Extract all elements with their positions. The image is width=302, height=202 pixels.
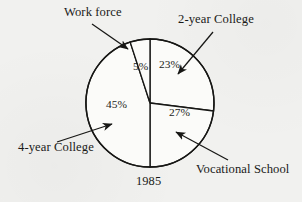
arrow-work-force [92, 24, 128, 49]
callout-label-2-year-college: 2-year College [178, 13, 254, 26]
chart-caption-year: 1985 [136, 175, 161, 187]
slice-value-work-force: 5% [133, 61, 148, 72]
pie-chart-figure: Work force 2-year College 4-year College… [0, 0, 302, 202]
callout-label-vocational-school: Vocational School [196, 163, 289, 176]
slice-2-year-college[interactable] [150, 39, 214, 111]
slice-value-2-year-college: 23% [159, 59, 180, 70]
callout-label-work-force: Work force [64, 6, 122, 19]
slice-value-4-year-college: 45% [106, 99, 127, 110]
callout-label-4-year-college: 4-year College [18, 141, 94, 154]
slice-value-vocational-school: 27% [169, 107, 190, 118]
